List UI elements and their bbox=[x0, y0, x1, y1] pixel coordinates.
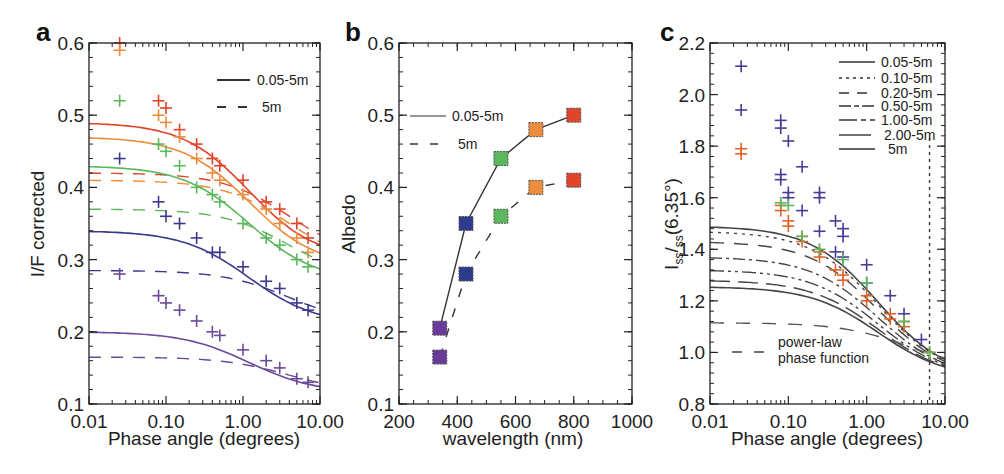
xlabel-b: wavelength (nm) bbox=[442, 428, 583, 449]
ytick-label: 0.1 bbox=[368, 394, 394, 415]
ylabel-b: Albedo bbox=[338, 194, 359, 253]
albedo-marker bbox=[494, 209, 508, 223]
xlabel-c: Phase angle (degrees) bbox=[731, 428, 923, 449]
ytick-label: 0.3 bbox=[368, 250, 394, 271]
albedo-marker bbox=[567, 108, 581, 122]
ytick-label: 2.2 bbox=[679, 33, 705, 54]
panel-label-b: b bbox=[345, 17, 361, 47]
panel-label-c: c bbox=[660, 17, 674, 47]
legend-b-solid-label: 0.05-5m bbox=[452, 108, 503, 124]
xtick-label: 10.00 bbox=[921, 411, 969, 432]
panel-c: c 0.010.101.0010.000.81.01.21.41.61.82.0… bbox=[660, 17, 969, 449]
ylabel-c-tail: (6.35°) bbox=[661, 178, 682, 235]
ytick-label: 1.6 bbox=[679, 188, 705, 209]
panel-a: a 0.010.101.0010.000.10.20.30.40.50.6 Ph… bbox=[27, 17, 344, 449]
ytick-label: 0.6 bbox=[58, 33, 84, 54]
ylabel-a: I/F corrected bbox=[27, 171, 48, 278]
ytick-label: 1.8 bbox=[679, 136, 705, 157]
xlabel-a: Phase angle (degrees) bbox=[108, 428, 300, 449]
ytick-label: 1.0 bbox=[679, 342, 705, 363]
ytick-label: 0.5 bbox=[368, 105, 394, 126]
panel-label-a: a bbox=[36, 17, 51, 47]
plot-area-a bbox=[89, 37, 320, 388]
ticks-b: 20040060080010000.10.20.30.40.50.6 bbox=[368, 33, 654, 432]
albedo-marker bbox=[567, 173, 581, 187]
ytick-label: 0.3 bbox=[58, 250, 84, 271]
ytick-label: 0.4 bbox=[368, 177, 395, 198]
ylabel-c-sub2: ss bbox=[672, 235, 686, 247]
albedo-marker bbox=[494, 152, 508, 166]
ytick-label: 0.5 bbox=[58, 105, 84, 126]
plot-area-b bbox=[433, 108, 581, 364]
legend-c-label-1: 0.10-5m bbox=[881, 70, 932, 86]
legend-c: 0.05-5m 0.10-5m 0.20-5m 0.50-5m 1.00-5m … bbox=[839, 54, 935, 157]
annotation-power-law: power-law phase function bbox=[732, 334, 869, 366]
power-law-label-2: phase function bbox=[778, 350, 869, 366]
legend-a: 0.05-5m 5m bbox=[217, 72, 308, 115]
ytick-label: 0.2 bbox=[368, 322, 394, 343]
legend-c-label-6: 5m bbox=[888, 141, 907, 157]
legend-b-dashed-label: 5m bbox=[458, 136, 477, 152]
albedo-marker bbox=[529, 180, 543, 194]
ytick-label: 2.0 bbox=[679, 85, 705, 106]
ytick-label: 0.1 bbox=[58, 394, 84, 415]
albedo-marker bbox=[459, 267, 473, 281]
albedo-marker bbox=[459, 217, 473, 231]
legend-c-label-4: 1.00-5m bbox=[881, 112, 932, 128]
ylabel-c-sub1: ss bbox=[672, 253, 686, 265]
panel-b: b 20040060080010000.10.20.30.40.50.6 wav… bbox=[338, 17, 653, 449]
albedo-marker bbox=[433, 321, 447, 335]
xtick-label: 1000 bbox=[611, 411, 653, 432]
ytick-label: 0.4 bbox=[58, 177, 85, 198]
legend-b: 0.05-5m 5m bbox=[410, 108, 503, 152]
ytick-label: 1.2 bbox=[679, 291, 705, 312]
albedo-marker bbox=[529, 123, 543, 137]
ytick-label: 0.6 bbox=[368, 33, 394, 54]
figure: a 0.010.101.0010.000.10.20.30.40.50.6 Ph… bbox=[0, 0, 1004, 474]
legend-c-label-0: 0.05-5m bbox=[881, 54, 932, 70]
ytick-label: 0.8 bbox=[679, 394, 705, 415]
xtick-label: 10.00 bbox=[296, 411, 344, 432]
legend-a-solid-label: 0.05-5m bbox=[257, 72, 308, 88]
power-law-label-1: power-law bbox=[778, 334, 843, 350]
legend-a-dashed-label: 5m bbox=[262, 99, 281, 115]
ytick-label: 0.2 bbox=[58, 322, 84, 343]
albedo-marker bbox=[433, 350, 447, 364]
